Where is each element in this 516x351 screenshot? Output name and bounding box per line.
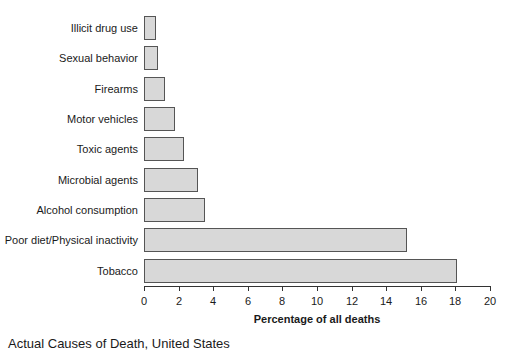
- x-tick-label: 8: [270, 295, 294, 307]
- bar: [144, 259, 457, 283]
- category-label: Microbial agents: [58, 174, 138, 186]
- category-label: Illicit drug use: [71, 22, 138, 34]
- bar: [144, 16, 156, 40]
- x-tick-label: 16: [409, 295, 433, 307]
- category-label: Poor diet/Physical inactivity: [5, 234, 138, 246]
- x-tick: [248, 286, 249, 291]
- category-label: Motor vehicles: [67, 113, 138, 125]
- x-tick-label: 0: [132, 295, 156, 307]
- category-label: Alcohol consumption: [36, 204, 138, 216]
- x-tick: [317, 286, 318, 291]
- bar: [144, 46, 158, 70]
- bar: [144, 168, 198, 192]
- x-tick-label: 14: [374, 295, 398, 307]
- category-label: Sexual behavior: [59, 52, 138, 64]
- bar: [144, 137, 184, 161]
- bar: [144, 228, 407, 252]
- x-tick: [282, 286, 283, 291]
- bar: [144, 198, 205, 222]
- x-tick-label: 4: [201, 295, 225, 307]
- x-tick: [421, 286, 422, 291]
- chart-caption: Actual Causes of Death, United States: [8, 336, 230, 351]
- x-axis-label: Percentage of all deaths: [144, 313, 490, 325]
- x-tick-label: 2: [167, 295, 191, 307]
- x-tick-label: 18: [443, 295, 467, 307]
- x-tick-label: 10: [305, 295, 329, 307]
- x-tick-label: 12: [340, 295, 364, 307]
- x-tick: [144, 286, 145, 291]
- category-label: Firearms: [95, 83, 138, 95]
- bar: [144, 77, 165, 101]
- x-tick: [213, 286, 214, 291]
- x-tick: [352, 286, 353, 291]
- x-tick-label: 20: [478, 295, 502, 307]
- x-tick: [490, 286, 491, 291]
- x-tick-label: 6: [236, 295, 260, 307]
- x-tick: [386, 286, 387, 291]
- x-tick: [179, 286, 180, 291]
- x-tick: [455, 286, 456, 291]
- bar: [144, 107, 175, 131]
- category-label: Tobacco: [97, 265, 138, 277]
- category-label: Toxic agents: [77, 143, 138, 155]
